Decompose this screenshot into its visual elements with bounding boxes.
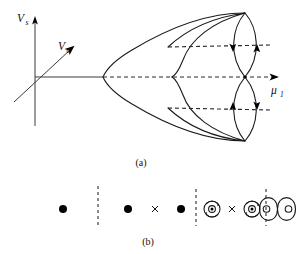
axis-va — [14, 46, 75, 102]
axis-mu1 — [103, 74, 279, 81]
axis-va-line — [14, 50, 70, 102]
filled-dot-1 — [59, 205, 67, 213]
cross-mark-1 — [152, 206, 158, 212]
figure-root: V s V a μ 1 (a) — [0, 0, 297, 254]
lower-right-branch-arrow — [253, 101, 260, 110]
label-va: V a — [58, 40, 71, 55]
cross-mark-2 — [229, 206, 235, 212]
label-vs: V s — [17, 12, 29, 27]
label-mu1-letter: μ — [270, 84, 277, 97]
upper-left-branch-arrow — [229, 43, 236, 52]
double-loop-lobe-right — [278, 198, 296, 221]
double-loop-center-right — [285, 206, 292, 213]
label-mu1-subscript: 1 — [280, 90, 284, 99]
filled-dot-3 — [177, 205, 185, 213]
bifurcation-figure: V s V a μ 1 (a) — [0, 0, 297, 254]
filled-dot-2 — [124, 205, 132, 213]
label-mu1: μ 1 — [270, 84, 284, 99]
label-va-subscript: a — [67, 46, 71, 55]
panel-b: (b) — [59, 186, 296, 248]
label-vs-subscript: s — [26, 18, 29, 27]
panel-a: V s V a μ 1 (a) — [14, 12, 284, 169]
axis-mu1-arrowhead — [270, 74, 280, 81]
convergence-node — [243, 75, 246, 78]
caption-a: (a) — [135, 157, 146, 169]
circled-dot-orbit-2 — [244, 201, 260, 217]
caption-b: (b) — [142, 236, 154, 248]
double-loop — [260, 198, 296, 221]
axis-vs — [32, 16, 38, 126]
double-loop-lobe-left — [260, 198, 278, 221]
circled-dot-orbit-1 — [204, 201, 220, 217]
